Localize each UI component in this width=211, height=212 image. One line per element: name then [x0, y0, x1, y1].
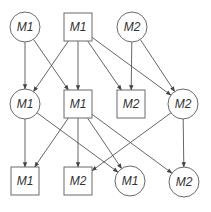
directed-graph: M1M1M2M1M1M2M2M1M2M1M2 — [0, 0, 211, 212]
node-circle-m2: M2 — [169, 167, 199, 197]
edge-arrow-r1c2-to-r2c1 — [34, 41, 69, 92]
edges-layer — [25, 37, 184, 173]
node-label: M1 — [17, 174, 34, 188]
node-label: M2 — [175, 97, 192, 111]
node-label: M1 — [17, 20, 34, 34]
edge-arrow-r1c1-to-r2c2 — [34, 39, 69, 90]
node-circle-m1: M1 — [10, 89, 40, 119]
edge-arrow-r2c4-to-r3c4 — [183, 119, 184, 167]
node-label: M2 — [176, 175, 193, 189]
edge-arrow-r2c1-to-r3c3 — [37, 113, 118, 172]
node-square-m2: M2 — [64, 167, 92, 195]
node-square-m1: M1 — [64, 90, 92, 118]
node-label: M1 — [70, 20, 87, 34]
node-circle-m1: M1 — [115, 166, 145, 196]
node-square-m1: M1 — [11, 167, 39, 195]
edge-arrow-r1c2-to-r2c3 — [88, 41, 122, 90]
edge-arrow-r1c3-to-r2c3 — [131, 42, 132, 90]
node-circle-m2: M2 — [117, 12, 147, 42]
node-label: M2 — [123, 97, 140, 111]
node-label: M2 — [124, 20, 141, 34]
nodes-layer: M1M1M2M1M1M2M2M1M2M1M2 — [10, 12, 199, 197]
node-circle-m1: M1 — [10, 12, 40, 42]
node-label: M1 — [122, 174, 139, 188]
node-label: M1 — [70, 97, 87, 111]
node-label: M1 — [17, 97, 34, 111]
diagram-canvas: M1M1M2M1M1M2M2M1M2M1M2 — [0, 0, 211, 212]
node-square-m2: M2 — [117, 90, 145, 118]
node-label: M2 — [70, 174, 87, 188]
edge-arrow-r1c3-to-r2c4 — [140, 40, 174, 92]
node-square-m1: M1 — [64, 13, 92, 41]
node-circle-m2: M2 — [168, 89, 198, 119]
edge-arrow-r2c2-to-r3c4 — [92, 114, 172, 173]
edge-arrow-r2c2-to-r3c1 — [35, 118, 69, 167]
